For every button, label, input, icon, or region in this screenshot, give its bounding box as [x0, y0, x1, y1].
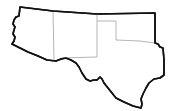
southwest-map	[0, 0, 172, 111]
